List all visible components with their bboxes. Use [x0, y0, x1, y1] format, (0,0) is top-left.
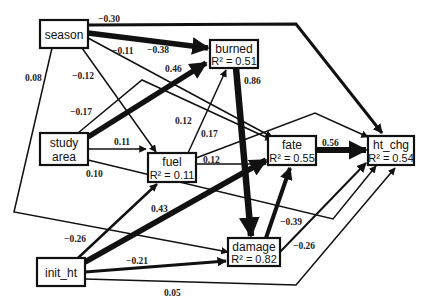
- node-season-label: season: [45, 28, 84, 42]
- node-study-area: study area: [40, 133, 88, 165]
- coef-season-damage: 0.08: [25, 73, 42, 83]
- coef-season-fuel: −0.12: [72, 71, 94, 81]
- coef-initht-damage: −0.21: [126, 256, 148, 266]
- node-fate-r2: R² = 0.55: [269, 152, 315, 164]
- node-ht-chg-label: ht_chg: [373, 138, 409, 152]
- node-ht-chg: ht_chg R² = 0.54: [368, 136, 414, 165]
- coef-initht-htchg: 0.05: [164, 288, 181, 298]
- node-fate-label: fate: [282, 138, 302, 152]
- node-burned-r2: R² = 0.51: [211, 55, 257, 67]
- coef-fuel-burned: 0.12: [175, 116, 192, 126]
- edge-studyarea-htchg: [88, 160, 376, 219]
- node-study-area-label-1: study: [50, 136, 79, 150]
- node-damage: damage R² = 0.82: [228, 238, 280, 266]
- path-diagram: −0.30 −0.38 −0.11 −0.12 0.08 0.46 −0.17 …: [0, 0, 426, 308]
- edge-initht-damage: [85, 261, 226, 272]
- coef-fuel-fate: 0.12: [203, 155, 220, 165]
- coef-initht-fate: 0.43: [151, 204, 168, 214]
- coef-initht-fuel: −0.26: [64, 234, 86, 244]
- coef-fate-htchg: 0.56: [322, 138, 339, 148]
- edge-burned-damage: [236, 68, 251, 236]
- edge-fuel-burned: [188, 70, 226, 153]
- node-init-ht-label: init_ht: [45, 266, 78, 280]
- coef-season-burned: −0.38: [147, 45, 169, 55]
- node-burned-label: burned: [215, 42, 252, 56]
- node-damage-r2: R² = 0.82: [231, 253, 277, 265]
- coef-season-htchg: −0.30: [98, 14, 120, 24]
- node-ht-chg-r2: R² = 0.54: [368, 152, 414, 164]
- coef-burned-damage: 0.86: [244, 76, 261, 86]
- node-fuel-label: fuel: [162, 155, 181, 169]
- coef-studyarea-fate: −0.17: [70, 107, 92, 117]
- coef-studyarea-fuel: 0.11: [114, 137, 130, 147]
- edge-initht-fuel: [78, 184, 157, 258]
- coef-season-fate: −0.11: [112, 46, 134, 56]
- node-init-ht: init_ht: [37, 258, 85, 286]
- node-fuel: fuel R² = 0.11: [148, 153, 196, 182]
- node-damage-label: damage: [232, 240, 276, 254]
- coef-studyarea-htchg: 0.10: [86, 169, 103, 179]
- coef-fuel-htchg: 0.17: [201, 129, 218, 139]
- node-season: season: [40, 20, 88, 48]
- edge-damage-htchg: [280, 163, 366, 252]
- node-fuel-r2: R² = 0.11: [150, 169, 195, 181]
- node-fate: fate R² = 0.55: [268, 136, 316, 165]
- coef-damage-htchg: −0.26: [293, 241, 315, 251]
- coef-damage-fate: −0.39: [280, 217, 302, 227]
- coef-studyarea-burned: 0.46: [165, 64, 182, 74]
- node-study-area-label-2: area: [52, 150, 76, 164]
- node-burned: burned R² = 0.51: [210, 40, 258, 68]
